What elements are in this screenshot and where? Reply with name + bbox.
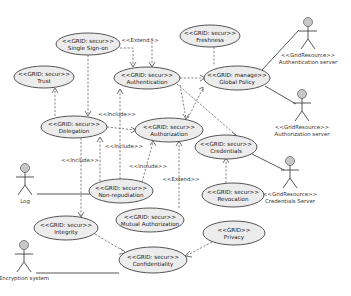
- use-case-name: Integrity: [54, 229, 78, 236]
- use-case-integrity[interactable]: <<GRID: secur>>Integrity: [34, 216, 98, 240]
- use-case-revocation[interactable]: <<GRID: secur>>Revocation: [202, 183, 264, 207]
- dep-integrity-confidentiality: [95, 234, 125, 252]
- use-case-ellipse: [14, 66, 74, 88]
- actor-leg: [290, 178, 297, 188]
- actor-leg: [308, 39, 315, 49]
- actor-authserver[interactable]: <<GridResource>>Authentication server: [279, 18, 338, 66]
- actor-leg: [25, 185, 32, 195]
- use-case-ellipse: [41, 116, 107, 138]
- use-case-ellipse: [119, 247, 187, 273]
- use-case-freshness[interactable]: <<GRID: secur>>Freshness: [180, 25, 240, 47]
- use-case-name: Mutual Authorization: [121, 221, 180, 227]
- use-case-ellipse: [204, 66, 270, 90]
- actor-log[interactable]: Log: [16, 164, 34, 206]
- actor-head-icon: [21, 164, 30, 173]
- use-case-ellipse: [195, 135, 257, 159]
- use-case-ellipse: [116, 208, 184, 232]
- relation-label: <<Include>>: [61, 157, 99, 163]
- use-case-name: Authorization: [150, 131, 188, 137]
- use-case-ellipse: [56, 33, 120, 55]
- use-case-nonrepudiation[interactable]: <<GRID: secur>>Non-repudiation: [89, 179, 153, 203]
- dep-privacy-confidentiality: [186, 242, 212, 256]
- use-case-ellipse: [34, 216, 98, 240]
- relation-label: <<Include>>: [105, 143, 143, 149]
- use-case-stereotype: <<GRID>>: [218, 227, 251, 233]
- use-case-name: Authentication: [126, 79, 168, 85]
- actor-head-icon: [20, 241, 29, 250]
- use-case-ellipse: [202, 183, 264, 207]
- actor-head-icon: [286, 157, 295, 166]
- relation-label: <<Include>>: [129, 163, 167, 169]
- actor-encryption[interactable]: Encryption system: [0, 241, 49, 283]
- use-case-stereotype: <<GRID: secur>>: [121, 72, 173, 78]
- use-case-name: Privacy: [224, 234, 245, 241]
- use-case-credentials[interactable]: <<GRID: secur>>Credentials: [195, 135, 257, 159]
- actor-head-icon: [304, 18, 313, 27]
- actor-name: Encryption system: [0, 275, 49, 282]
- use-case-name: Freshness: [196, 37, 224, 43]
- use-case-authentication[interactable]: <<GRID: secur>>Authentication: [114, 67, 180, 89]
- use-case-confidentiality[interactable]: <<GRID: secur>>Confidentiality: [119, 247, 187, 273]
- use-case-ellipse: [114, 67, 180, 89]
- use-case-name: Non-repudiation: [98, 192, 144, 199]
- use-case-globalpolicy[interactable]: <<GRID: manage>>Global Policy: [204, 66, 270, 90]
- use-case-stereotype: <<GRID: manage>>: [207, 72, 267, 79]
- actor-leg: [283, 178, 290, 188]
- actor-leg: [18, 185, 25, 195]
- actor-name: Log: [20, 198, 30, 205]
- use-case-stereotype: <<GRID: secur>>: [143, 124, 195, 130]
- actor-leg: [295, 111, 302, 121]
- use-case-stereotype: <<GRID: secur>>: [127, 254, 179, 260]
- use-case-privacy[interactable]: <<GRID>>Privacy: [203, 221, 265, 245]
- dep-authorization-globalpolicy: [188, 88, 203, 118]
- dep-globalpolicy-authorization: [180, 85, 186, 118]
- actor-head-icon: [298, 90, 307, 99]
- use-case-name: Delegation: [59, 128, 90, 135]
- use-case-stereotype: <<GRID: secur>>: [62, 38, 114, 44]
- use-case-name: Global Policy: [219, 79, 255, 86]
- use-case-stereotype: <<GRID: secur>>: [124, 214, 176, 220]
- assoc-authzserver-globalpolicy: [265, 86, 296, 104]
- use-case-authorization[interactable]: <<GRID: secur>>Authorization: [135, 118, 203, 142]
- relation-label: <<Extend>>: [122, 37, 159, 43]
- dep-delegation-authorization: [107, 127, 135, 130]
- use-case-name: Single Sign-on: [68, 45, 109, 52]
- actor-leg: [301, 39, 308, 49]
- use-case-name: Revocation: [217, 196, 248, 202]
- use-case-stereotype: <<GRID: secur>>: [48, 121, 100, 127]
- use-case-sso[interactable]: <<GRID: secur>>Single Sign-on: [56, 33, 120, 55]
- actor-name: Credentials Server: [265, 198, 316, 204]
- use-case-stereotype: <<GRID: secur>>: [18, 71, 70, 77]
- use-case-stereotype: <<GRID: secur>>: [184, 30, 236, 36]
- use-case-stereotype: <<GRID: secur>>: [200, 141, 252, 147]
- use-case-mutualauth[interactable]: <<GRID: secur>>Mutual Authorization: [116, 208, 184, 232]
- actors: <<GridResource>>Authentication server<<G…: [0, 18, 338, 283]
- actor-name: Authorization server: [275, 131, 331, 137]
- dep-nonrep-authorization: [142, 142, 153, 182]
- actor-leg: [24, 262, 31, 272]
- use-case-stereotype: <<GRID: secur>>: [95, 185, 147, 191]
- use-case-diagram: <<Extend>><<Include>><<Include>><<Includ…: [0, 0, 351, 296]
- use-case-name: Trust: [36, 78, 51, 84]
- use-case-name: Credentials: [210, 148, 242, 154]
- use-cases: <<GRID: secur>>Single Sign-on<<GRID: sec…: [14, 25, 270, 273]
- actor-stereotype: <<GridResource>>: [275, 124, 329, 130]
- actor-name: Authentication server: [279, 59, 338, 65]
- actor-leg: [17, 262, 24, 272]
- assoc-credserver-credentials: [252, 154, 284, 170]
- use-case-ellipse: [180, 25, 240, 47]
- use-case-stereotype: <<GRID: secur>>: [207, 189, 259, 195]
- relation-label: <<Extend>>: [163, 176, 200, 182]
- use-case-ellipse: [135, 118, 203, 142]
- use-case-trust[interactable]: <<GRID: secur>>Trust: [14, 66, 74, 88]
- use-case-stereotype: <<GRID: secur>>: [40, 222, 92, 228]
- actor-leg: [302, 111, 309, 121]
- use-case-ellipse: [89, 179, 153, 203]
- use-case-ellipse: [203, 221, 265, 245]
- use-case-name: Confidentiality: [133, 261, 174, 268]
- use-case-delegation[interactable]: <<GRID: secur>>Delegation: [41, 116, 107, 138]
- actor-stereotype: <<GridResource>>: [281, 52, 335, 58]
- actor-stereotype: <<GridResource>>: [263, 191, 317, 197]
- relation-label: <<Include>>: [98, 111, 136, 117]
